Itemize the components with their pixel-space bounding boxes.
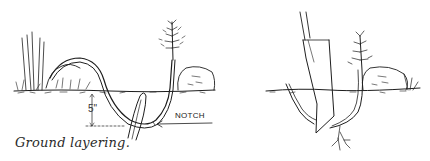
notch-label: NOTCH — [175, 111, 205, 120]
depth-label: 5" — [88, 103, 97, 114]
left-panel-drawing — [14, 20, 215, 140]
figure-caption: Ground layering. — [15, 135, 130, 150]
ground-layering-figure: 5" NOTCH Ground layering. — [0, 0, 430, 161]
right-panel-drawing — [266, 12, 420, 150]
